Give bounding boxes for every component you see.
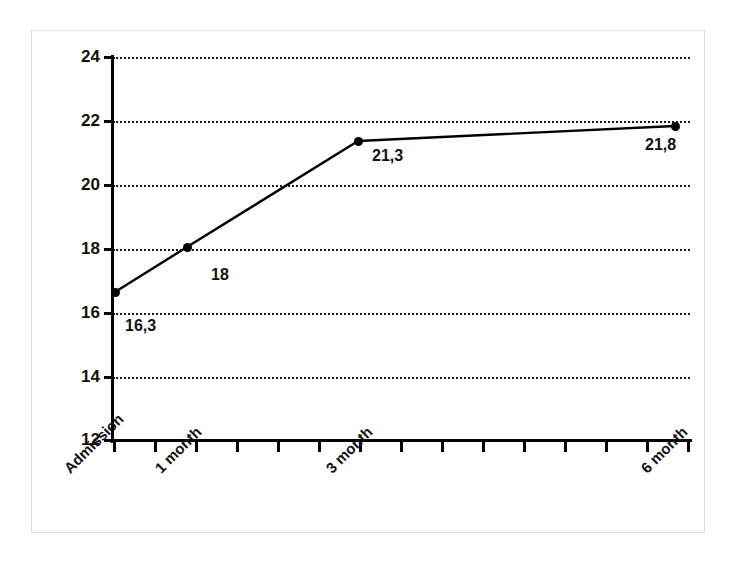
x-tick-mark-0 <box>113 442 116 452</box>
gridline-14 <box>113 377 690 379</box>
x-tick-mark-10 <box>523 442 526 452</box>
y-tick-label-24: 24 <box>60 48 100 65</box>
x-tick-mark-4 <box>277 442 280 452</box>
y-tick-mark-22 <box>104 120 113 123</box>
y-tick-label-20: 20 <box>60 176 100 193</box>
y-tick-mark-24 <box>104 56 113 59</box>
gridline-24 <box>113 57 690 59</box>
y-tick-label-wrap-20: 20 <box>55 176 100 194</box>
y-tick-label-18: 18 <box>60 240 100 257</box>
x-tick-mark-1 <box>154 442 157 452</box>
y-tick-mark-20 <box>104 184 113 187</box>
y-tick-mark-18 <box>104 248 113 251</box>
x-tick-mark-14 <box>687 442 690 452</box>
y-tick-label-16: 16 <box>60 304 100 321</box>
x-tick-mark-13 <box>646 442 649 452</box>
x-tick-mark-9 <box>482 442 485 452</box>
data-value-label-admission: 16,3 <box>125 318 156 334</box>
x-tick-mark-11 <box>564 442 567 452</box>
gridline-20 <box>113 185 690 187</box>
chart-figure: 24 22 20 18 16 14 12 Admission 1 month 3… <box>0 0 739 567</box>
y-tick-label-wrap-24: 24 <box>55 48 100 66</box>
plot-area <box>113 57 690 441</box>
y-tick-label-22: 22 <box>60 112 100 129</box>
gridline-22 <box>113 121 690 123</box>
x-tick-mark-5 <box>318 442 321 452</box>
y-tick-label-14: 14 <box>60 368 100 385</box>
data-point-3-month[interactable] <box>354 137 363 146</box>
y-tick-mark-16 <box>104 312 113 315</box>
data-value-label-6-month: 21,8 <box>645 137 676 153</box>
data-point-1-month[interactable] <box>183 243 192 252</box>
data-value-label-3-month: 21,3 <box>372 148 403 164</box>
gridline-16 <box>113 313 690 315</box>
x-tick-mark-7 <box>400 442 403 452</box>
y-tick-label-wrap-18: 18 <box>55 240 100 258</box>
data-value-label-1-month: 18 <box>211 267 229 283</box>
x-tick-mark-8 <box>441 442 444 452</box>
gridline-18 <box>113 249 690 251</box>
data-point-6-month[interactable] <box>671 122 680 131</box>
data-point-admission[interactable] <box>111 288 120 297</box>
y-tick-mark-14 <box>104 376 113 379</box>
y-tick-label-wrap-22: 22 <box>55 112 100 130</box>
x-tick-mark-12 <box>605 442 608 452</box>
y-tick-label-wrap-14: 14 <box>55 368 100 386</box>
y-tick-label-wrap-16: 16 <box>55 304 100 322</box>
x-tick-mark-3 <box>236 442 239 452</box>
